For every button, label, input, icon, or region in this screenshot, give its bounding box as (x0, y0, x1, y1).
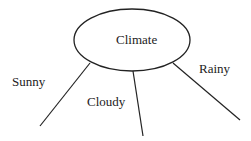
branch-label-cloudy: Cloudy (87, 95, 125, 108)
root-node-label: Climate (116, 33, 157, 46)
branch-label-rainy: Rainy (199, 62, 230, 75)
branch-line-sunny (40, 63, 90, 126)
branch-line-cloudy (133, 71, 143, 136)
branch-label-sunny: Sunny (12, 75, 45, 88)
